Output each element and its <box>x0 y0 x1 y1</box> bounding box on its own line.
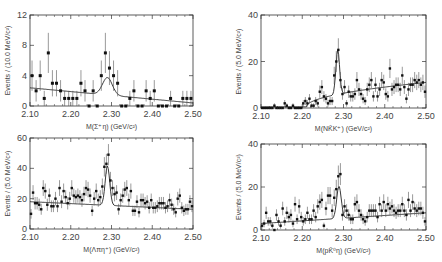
data-point <box>352 218 354 220</box>
data-point <box>409 209 411 211</box>
data-point <box>99 196 101 198</box>
x-axis-label: M(pK̄⁰η) (GeV/c²) <box>316 247 370 255</box>
data-point <box>391 205 393 207</box>
data-point <box>356 79 358 81</box>
data-point <box>347 214 349 216</box>
data-point <box>420 84 422 86</box>
data-point <box>134 210 136 212</box>
data-point <box>302 102 304 104</box>
data-point <box>169 97 172 100</box>
data-point <box>399 209 401 211</box>
data-point <box>54 197 56 199</box>
data-point <box>376 95 378 97</box>
data-point <box>284 102 286 104</box>
data-point <box>97 199 99 201</box>
data-point <box>136 105 139 108</box>
data-point <box>119 199 121 201</box>
data-point <box>345 102 347 104</box>
data-point <box>368 84 370 86</box>
x-tick-label: 2.20 <box>293 233 311 243</box>
data-point <box>374 209 376 211</box>
data-point <box>84 89 87 92</box>
data-point <box>290 107 292 109</box>
fit-curve <box>30 78 193 103</box>
data-point <box>333 74 335 76</box>
panel-sigma-eta: 2.102.202.302.402.5004812M(Σ⁺η) (GeV/c²)… <box>4 10 202 131</box>
data-point <box>288 107 290 109</box>
data-point <box>174 211 176 213</box>
y-tick-label: 0 <box>253 225 258 235</box>
data-point <box>306 212 308 214</box>
data-point <box>179 194 181 196</box>
data-point <box>284 220 286 222</box>
data-point <box>124 105 127 108</box>
data-point <box>319 201 321 203</box>
data-point <box>302 220 304 222</box>
data-point <box>339 173 341 175</box>
data-point <box>395 84 397 86</box>
data-point <box>67 97 70 100</box>
data-point <box>277 220 279 222</box>
data-point <box>42 187 44 189</box>
data-point <box>162 202 164 204</box>
data-point <box>389 67 391 69</box>
data-point <box>130 190 132 192</box>
data-point <box>362 218 364 220</box>
data-point <box>358 88 360 90</box>
data-point <box>44 190 46 192</box>
data-point <box>191 205 193 207</box>
data-point <box>261 225 263 227</box>
data-point <box>356 201 358 203</box>
y-tick-label: 12 <box>17 10 27 20</box>
data-point <box>368 209 370 211</box>
data-point <box>335 188 337 190</box>
data-point <box>372 95 374 97</box>
y-tick-label: 20 <box>248 182 258 192</box>
data-point <box>281 107 283 109</box>
data-point <box>401 203 403 205</box>
data-point <box>69 197 71 199</box>
data-point <box>267 107 269 109</box>
x-tick-label: 2.30 <box>103 109 121 119</box>
data-point <box>403 86 405 88</box>
data-point <box>161 105 164 108</box>
data-point <box>112 74 115 77</box>
data-point <box>376 216 378 218</box>
data-point <box>337 49 339 51</box>
data-point <box>317 102 319 104</box>
data-point <box>51 82 54 85</box>
data-point <box>401 74 403 76</box>
data-point <box>343 205 345 207</box>
data-point <box>145 89 148 92</box>
data-point <box>189 201 191 203</box>
data-point <box>30 213 32 215</box>
data-point <box>100 74 103 77</box>
data-point <box>314 100 316 102</box>
data-point <box>63 97 66 100</box>
data-point <box>43 97 46 100</box>
data-point <box>424 220 426 222</box>
data-point <box>120 105 123 108</box>
data-point <box>39 74 42 77</box>
data-point <box>387 95 389 97</box>
data-point <box>38 204 40 206</box>
data-point <box>95 190 97 192</box>
x-tick-label: 2.20 <box>62 232 80 242</box>
data-point <box>288 216 290 218</box>
data-point <box>335 60 337 62</box>
plot-frame <box>30 138 193 229</box>
data-point <box>314 216 316 218</box>
data-point <box>136 201 138 203</box>
data-point <box>146 201 148 203</box>
data-point <box>66 202 68 204</box>
data-point <box>296 218 298 220</box>
x-tick-label: 2.20 <box>293 111 311 121</box>
data-point <box>416 209 418 211</box>
data-point <box>294 203 296 205</box>
data-point <box>319 91 321 93</box>
data-point <box>345 209 347 211</box>
data-point <box>296 107 298 109</box>
data-point <box>350 95 352 97</box>
data-point <box>366 216 368 218</box>
x-tick-label: 2.50 <box>184 109 202 119</box>
